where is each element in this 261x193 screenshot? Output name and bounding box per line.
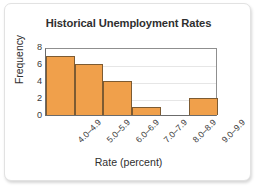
- x-axis-tick-label: 8.0–8.9: [191, 118, 217, 144]
- y-axis-tick-label: 8: [37, 43, 42, 52]
- histogram-figure-card: Historical Unemployment Rates Frequency …: [4, 3, 251, 181]
- x-axis-title: Rate (percent): [5, 156, 251, 168]
- y-axis-tick-label: 6: [37, 60, 42, 69]
- bar: [132, 107, 161, 116]
- bar: [189, 98, 218, 115]
- bar-series: [46, 49, 216, 115]
- x-axis-tick-label: 7.0–7.9: [163, 118, 189, 144]
- y-axis-tick-label: 4: [37, 77, 42, 86]
- x-axis-tick-labels: 4.0–4.95.0–5.96.0–6.97.0–7.98.0–8.99.0–9…: [45, 116, 217, 156]
- x-axis-tick-label: 5.0–5.9: [105, 118, 131, 144]
- x-axis-tick-label: 4.0–4.9: [77, 118, 103, 144]
- bar: [46, 56, 75, 116]
- x-axis-tick-label: 6.0–6.9: [134, 118, 160, 144]
- bar: [103, 81, 132, 115]
- bar: [75, 64, 104, 115]
- y-axis-tick-label: 2: [37, 94, 42, 103]
- plot-area: [45, 48, 217, 116]
- y-axis-tick-labels: 02468: [23, 48, 42, 116]
- chart-title: Historical Unemployment Rates: [5, 17, 251, 29]
- y-axis-tick-label: 0: [37, 111, 42, 120]
- x-axis-tick-label: 9.0–9.9: [220, 118, 246, 144]
